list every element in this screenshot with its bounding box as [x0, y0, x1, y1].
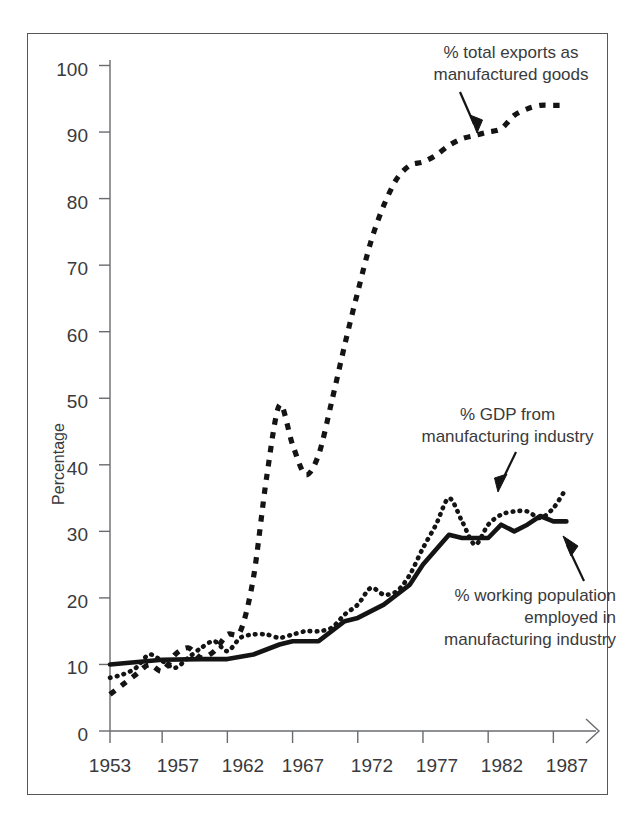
series-line-exports — [110, 105, 566, 694]
axes — [110, 60, 599, 743]
arrow-exports-icon — [460, 92, 483, 133]
plot-area — [0, 0, 633, 815]
arrow-employment-icon — [563, 536, 584, 581]
arrow-gdp-icon — [495, 452, 517, 492]
x-axis-ticks — [110, 731, 553, 743]
series-line-gdp — [110, 488, 566, 678]
annotation-arrows — [460, 92, 584, 581]
y-axis-ticks — [99, 66, 110, 732]
series-line-employment — [110, 516, 566, 665]
chart-figure: Percentage 100 90 80 70 60 50 40 30 20 1… — [0, 0, 633, 815]
